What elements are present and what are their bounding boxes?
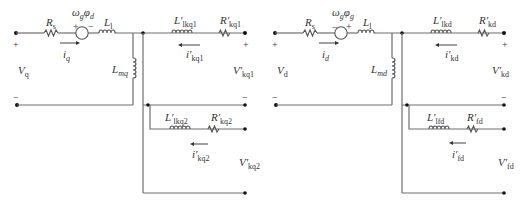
- output-terminal: [502, 31, 506, 35]
- minus-sign: −: [242, 92, 248, 103]
- circuit-diagram: + − + − + − Rs ωgφd Ll Lmq iq Vq L'lkq1 …: [0, 0, 526, 205]
- label-emf: ωgφd: [72, 6, 95, 21]
- source-plus-sign: +: [73, 21, 79, 32]
- source-minus-sign: −: [88, 21, 94, 32]
- arrow-head-icon: [335, 41, 339, 45]
- output-terminal: [502, 127, 506, 131]
- label-i-in: iq: [63, 48, 70, 63]
- label-rk2: R'kq2: [210, 111, 232, 126]
- label-v-in: Vd: [277, 64, 288, 79]
- plus-sign: +: [272, 39, 278, 50]
- output-terminal: [243, 127, 247, 131]
- label-lk1: L'lkq1: [173, 14, 197, 29]
- label-rk1: R'kd: [478, 14, 496, 29]
- label-i-k2: i'fd: [452, 148, 464, 163]
- label-v-k2: V'fd: [498, 156, 514, 171]
- label-l1: Ll: [362, 16, 372, 31]
- d-axis-circuit: + − − + + − Rs ωgφg Ll Lmd id Vd L'lkd R…: [272, 6, 514, 195]
- output-terminal: [243, 31, 247, 35]
- output-terminal: [243, 103, 247, 107]
- label-lk1: L'lkd: [432, 14, 452, 29]
- plus-sign: +: [13, 39, 19, 50]
- label-rs: Rs: [304, 16, 315, 31]
- label-v-k2: V'kq2: [239, 156, 260, 171]
- node-junction: [405, 103, 409, 107]
- label-lm: Lmd: [370, 63, 388, 78]
- label-rk1: R'kq1: [219, 14, 241, 29]
- inductor-l1: [99, 30, 117, 33]
- arrow-head-icon: [449, 141, 453, 145]
- inductor-lm: [133, 58, 136, 78]
- plus-sign: +: [502, 39, 508, 50]
- label-v-k1: V'kd: [492, 64, 509, 79]
- label-i-k1: i'kq1: [186, 48, 203, 63]
- label-rk2: R'fd: [466, 111, 483, 126]
- output-terminal: [502, 103, 506, 107]
- source-minus-sign: −: [332, 22, 338, 33]
- node-junction: [146, 103, 150, 107]
- label-v-k1: V'kq1: [233, 64, 254, 79]
- label-i-k2: i'kq2: [192, 148, 209, 163]
- q-axis-circuit: + − + − + − Rs ωgφd Ll Lmq iq Vq L'lkq1 …: [13, 6, 260, 195]
- arrow-head-icon: [76, 41, 80, 45]
- label-l1: Ll: [103, 16, 113, 31]
- plus-sign: +: [243, 39, 249, 50]
- wire: [409, 105, 504, 129]
- arrow-head-icon: [178, 43, 182, 47]
- label-i-k1: i'kd: [445, 48, 458, 63]
- inductor-lm: [392, 58, 395, 78]
- inductor-l1: [358, 30, 376, 33]
- minus-sign: −: [272, 92, 278, 103]
- label-i-in: id: [322, 48, 330, 63]
- minus-sign: −: [501, 92, 507, 103]
- arrow-head-icon: [190, 142, 194, 146]
- minus-sign: −: [13, 92, 19, 103]
- label-lm: Lmq: [111, 63, 128, 78]
- output-terminal: [502, 191, 506, 195]
- source-plus-sign: +: [346, 21, 352, 32]
- label-emf: ωgφg: [332, 6, 354, 21]
- arrow-head-icon: [435, 43, 439, 47]
- resistor-rs: [44, 30, 58, 36]
- label-v-in: Vq: [18, 64, 29, 79]
- label-rs: Rs: [45, 16, 56, 31]
- output-terminal: [243, 191, 247, 195]
- label-lk2: L'lkq2: [164, 111, 188, 126]
- label-lk2: L'lfd: [426, 111, 444, 126]
- resistor-rs: [303, 30, 317, 36]
